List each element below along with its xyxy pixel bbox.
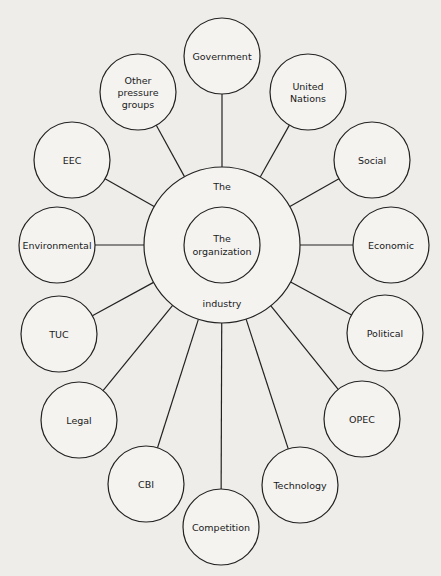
environmental-label: Environmental: [22, 240, 91, 251]
connector-political: [291, 282, 352, 315]
node-economic: Economic: [353, 207, 429, 283]
node-competition: Competition: [183, 489, 259, 565]
connector-united-nations: [260, 125, 289, 177]
cbi-label: CBI: [138, 479, 154, 490]
social-label: Social: [358, 155, 386, 166]
node-legal: Legal: [41, 382, 117, 458]
opec-label: OPEC: [349, 414, 375, 425]
node-technology: Technology: [262, 447, 338, 523]
tuc-label: TUC: [48, 329, 69, 340]
connector-opec: [271, 306, 338, 390]
node-government: Government: [184, 18, 260, 94]
node-social: Social: [334, 122, 410, 198]
competition-label: Competition: [192, 522, 250, 533]
node-political: Political: [347, 295, 423, 371]
node-tuc: TUC: [21, 296, 97, 372]
organization-circle: [184, 207, 260, 283]
organization-label-line2: organization: [192, 246, 251, 257]
other-pressure-groups-label: Other: [125, 75, 152, 86]
united-nations-label: Nations: [290, 93, 326, 104]
node-cbi: CBI: [108, 446, 184, 522]
other-pressure-groups-label: pressure: [117, 87, 158, 98]
connector-competition: [221, 323, 222, 489]
connector-tuc: [92, 282, 153, 315]
connector-other-pressure-groups: [156, 125, 184, 176]
economic-label: Economic: [368, 240, 414, 251]
technology-label: Technology: [272, 480, 327, 491]
industry-label-bottom: industry: [203, 298, 242, 309]
center-hub: The industry The organization: [144, 167, 300, 323]
industry-label-top: The: [212, 181, 231, 192]
node-united-nations: UnitedNations: [270, 54, 346, 130]
organization-label-line1: The: [212, 233, 231, 244]
connector-social: [290, 179, 339, 207]
connector-eec: [105, 179, 154, 207]
legal-label: Legal: [66, 415, 91, 426]
node-eec: EEC: [34, 122, 110, 198]
eec-label: EEC: [63, 155, 82, 166]
united-nations-label: United: [292, 81, 323, 92]
node-environmental: Environmental: [19, 207, 95, 283]
hub-spoke-diagram: GovernmentUnitedNationsSocialEconomicPol…: [0, 0, 441, 576]
connector-cbi: [158, 319, 199, 447]
node-other-pressure-groups: Otherpressuregroups: [100, 54, 176, 130]
connector-legal: [103, 305, 173, 390]
other-pressure-groups-label: groups: [122, 99, 155, 110]
node-opec: OPEC: [324, 381, 400, 457]
government-label: Government: [192, 51, 252, 62]
connector-technology: [246, 319, 288, 449]
political-label: Political: [367, 328, 404, 339]
